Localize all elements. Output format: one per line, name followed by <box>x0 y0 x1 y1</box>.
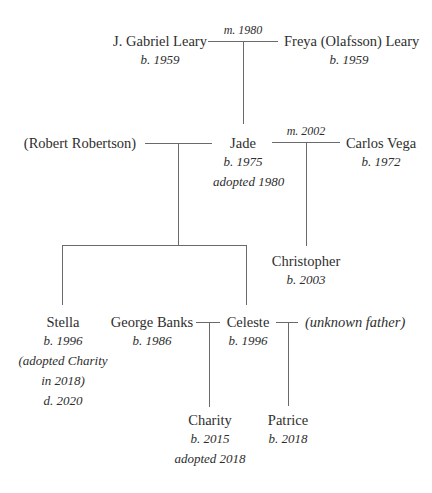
person-name: J. Gabriel Leary <box>110 32 210 50</box>
person-celeste: Celeste b. 1996 <box>222 313 274 351</box>
person-birth: b. 1975 <box>213 152 273 172</box>
person-birth: b. 1959 <box>110 50 210 70</box>
person-name: Christopher <box>266 252 346 270</box>
person-patrice: Patrice b. 2018 <box>262 411 314 449</box>
person-adopted: adopted 2018 <box>172 449 248 469</box>
person-birth: b. 2018 <box>262 429 314 449</box>
sibling-line-stella-celeste <box>62 245 247 246</box>
person-birth: b. 1986 <box>110 331 194 351</box>
descent-line-robert-jade <box>178 143 179 245</box>
person-charity: Charity b. 2015 adopted 2018 <box>172 411 248 469</box>
person-birth: b. 2015 <box>172 429 248 449</box>
descent-line-stella <box>62 245 63 305</box>
person-name: Stella <box>14 313 112 331</box>
person-adopted: adopted 1980 <box>213 172 273 192</box>
person-stella: Stella b. 1996 (adopted Charity in 2018)… <box>14 313 112 411</box>
person-name: George Banks <box>110 313 194 331</box>
person-death: d. 2020 <box>14 391 112 411</box>
person-note: (adopted Charity <box>14 351 112 371</box>
person-jade: Jade b. 1975 adopted 1980 <box>213 134 273 192</box>
person-name: Patrice <box>262 411 314 429</box>
descent-line-christopher <box>306 142 307 246</box>
descent-line-jade <box>243 41 244 124</box>
person-name: (Robert Robertson) <box>20 134 140 152</box>
person-birth: b. 1996 <box>222 331 274 351</box>
person-gabriel: J. Gabriel Leary b. 1959 <box>110 32 210 70</box>
person-name: Freya (Olafsson) Leary <box>284 32 414 50</box>
union-line-george-celeste <box>196 322 220 323</box>
person-name: Celeste <box>222 313 274 331</box>
person-name: (unknown father) <box>305 313 405 331</box>
descent-line-charity <box>209 322 210 407</box>
person-birth: b. 2003 <box>266 270 346 290</box>
person-name: Jade <box>213 134 273 152</box>
union-line-celeste-unknown <box>276 322 298 323</box>
union-label-1980: m. 1980 <box>208 23 278 38</box>
person-birth: b. 1996 <box>14 331 112 351</box>
person-unknown-father: (unknown father) <box>305 313 405 331</box>
person-birth: b. 1972 <box>343 152 419 172</box>
person-freya: Freya (Olafsson) Leary b. 1959 <box>284 32 414 70</box>
person-name: Charity <box>172 411 248 429</box>
person-robert: (Robert Robertson) <box>20 134 140 152</box>
person-carlos: Carlos Vega b. 1972 <box>343 134 419 172</box>
person-christopher: Christopher b. 2003 <box>266 252 346 290</box>
person-george: George Banks b. 1986 <box>110 313 194 351</box>
descent-line-celeste <box>246 245 247 305</box>
person-birth: b. 1959 <box>284 50 414 70</box>
union-label-2002: m. 2002 <box>272 124 340 139</box>
person-name: Carlos Vega <box>343 134 419 152</box>
descent-line-patrice <box>288 322 289 406</box>
person-note: in 2018) <box>14 371 112 391</box>
